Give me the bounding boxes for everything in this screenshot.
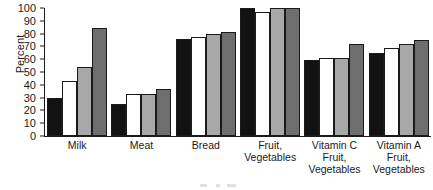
bar <box>414 40 429 136</box>
bar <box>369 53 384 136</box>
bar <box>191 37 206 136</box>
bar <box>156 89 171 136</box>
bar <box>384 48 399 136</box>
x-axis-label-line: Vegetables <box>356 163 433 175</box>
bar-group <box>174 8 238 136</box>
bar <box>141 94 156 136</box>
x-axis-category-labels: MilkMeatBreadFruit,VegetablesVitamin CFr… <box>45 139 431 189</box>
bar <box>304 60 319 136</box>
bar <box>255 12 270 136</box>
bar <box>285 8 300 136</box>
bar <box>319 58 334 136</box>
y-axis-tick-label: 80 <box>24 28 36 40</box>
bar <box>62 81 77 136</box>
y-axis-tick-label: 90 <box>24 15 36 27</box>
bar-group <box>45 8 109 136</box>
bar <box>126 94 141 136</box>
y-axis-tick-labels: 1009080706050403020100 <box>0 0 44 190</box>
bar <box>270 8 285 136</box>
bar <box>92 28 107 136</box>
bar <box>221 32 236 136</box>
bar <box>399 44 414 136</box>
y-axis-tick-label: 40 <box>24 79 36 91</box>
y-axis-tick-label: 70 <box>24 40 36 52</box>
cropped-caption-artifact <box>196 184 242 187</box>
bar <box>349 44 364 136</box>
bar-group <box>302 8 366 136</box>
bar <box>47 98 62 136</box>
y-axis-tick-label: 60 <box>24 53 36 65</box>
bar-group <box>109 8 173 136</box>
x-axis-baseline <box>44 136 431 137</box>
bar <box>176 39 191 136</box>
bar <box>77 67 92 136</box>
bar-chart-figure: Percent 1009080706050403020100 MilkMeatB… <box>0 0 433 190</box>
y-axis-tick-label: 100 <box>18 2 36 14</box>
bar <box>206 34 221 136</box>
bar <box>111 104 126 136</box>
x-axis-label-line: Fruit, <box>356 151 433 163</box>
y-axis-tick-label: 50 <box>24 66 36 78</box>
x-axis-label-line: Vitamin A <box>356 139 433 151</box>
x-axis-category-label: Vitamin AFruit,Vegetables <box>356 139 433 175</box>
bar-group <box>367 8 431 136</box>
bar-group <box>238 8 302 136</box>
bar <box>240 8 255 136</box>
plot-area <box>45 8 431 136</box>
y-axis-tick-label: 20 <box>24 104 36 116</box>
y-axis-tick-label: 30 <box>24 92 36 104</box>
y-axis-tick-label: 10 <box>24 117 36 129</box>
bar <box>334 58 349 136</box>
